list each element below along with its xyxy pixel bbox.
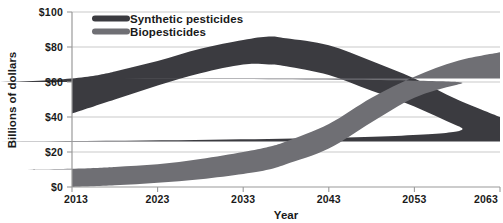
y-tick-label-100: $100 — [39, 6, 63, 18]
x-axis-tick-labels: 2013 2023 2033 2043 2053 2063 — [64, 193, 498, 205]
y-tick-label-60: $60 — [45, 76, 63, 88]
x-tick-label-2043: 2043 — [317, 193, 341, 205]
y-tick-label-0: $0 — [51, 181, 63, 193]
y-axis-title: Billions of dollars — [6, 52, 18, 148]
pesticide-market-forecast-chart: $100 $80 $60 $40 $20 $0 2013 2023 2033 2… — [0, 0, 503, 223]
x-tick-label-2033: 2033 — [231, 193, 255, 205]
legend-label-synthetic-pesticides: Synthetic pesticides — [130, 13, 243, 25]
y-axis-tick-labels: $100 $80 $60 $40 $20 $0 — [39, 6, 63, 193]
y-tick-label-80: $80 — [45, 41, 63, 53]
legend-swatch-synthetic-pesticides — [92, 16, 130, 22]
legend-label-biopesticides: Biopesticides — [130, 26, 206, 38]
chart-container: $100 $80 $60 $40 $20 $0 2013 2023 2033 2… — [0, 0, 503, 223]
x-tick-label-2063: 2063 — [474, 193, 498, 205]
legend-swatch-biopesticides — [92, 29, 130, 35]
y-tick-label-20: $20 — [45, 146, 63, 158]
x-tick-marks — [72, 187, 500, 192]
x-tick-label-2013: 2013 — [64, 193, 88, 205]
x-axis-title: Year — [274, 209, 299, 221]
x-tick-label-2023: 2023 — [146, 193, 170, 205]
y-tick-label-40: $40 — [45, 111, 63, 123]
y-tick-marks — [67, 12, 72, 187]
x-tick-label-2053: 2053 — [402, 193, 426, 205]
